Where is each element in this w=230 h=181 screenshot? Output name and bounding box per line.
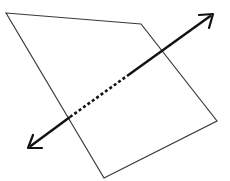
line-solid-lower-segment <box>30 117 70 147</box>
diagram-canvas <box>0 0 230 181</box>
line-solid-upper-segment <box>127 16 211 77</box>
line-hidden-dashed-segment <box>70 76 127 117</box>
plane-quadrilateral <box>6 13 217 178</box>
